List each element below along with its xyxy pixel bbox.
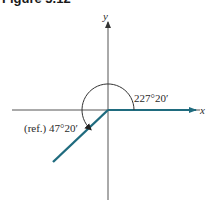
- reference-angle-label: (ref.) 47°20′: [24, 122, 78, 135]
- angle-diagram: y x 227°20′ (ref.) 47°20′: [0, 0, 209, 202]
- y-axis-label: y: [102, 10, 108, 22]
- angle-label: 227°20′: [134, 92, 168, 104]
- x-axis-label: x: [199, 104, 205, 116]
- terminal-side-ray: [53, 110, 108, 162]
